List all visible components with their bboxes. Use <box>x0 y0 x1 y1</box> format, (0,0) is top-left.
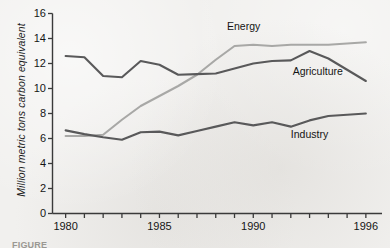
figure-caption: FIGURE <box>12 240 47 248</box>
figure-container: Million metric tons carbon equivalent 02… <box>0 0 390 248</box>
series-line-agriculture <box>66 51 366 81</box>
chart-series <box>66 42 366 140</box>
line-chart-plot <box>0 0 390 248</box>
series-line-industry <box>66 114 366 140</box>
